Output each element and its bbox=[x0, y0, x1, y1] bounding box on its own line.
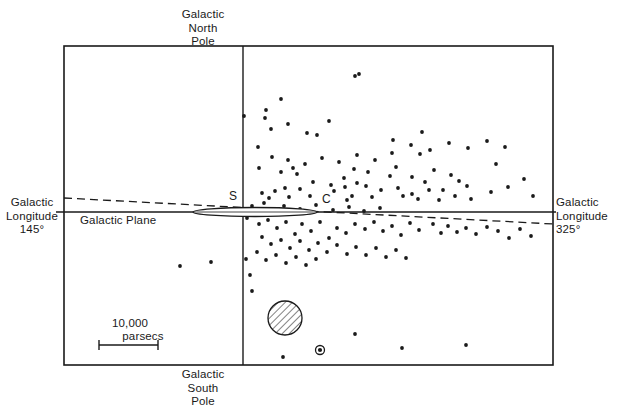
circled-dot-object bbox=[316, 346, 325, 355]
plot-canvas bbox=[0, 0, 619, 413]
axis-label-galactic-longitude-145: Galactic Longitude 145° bbox=[2, 196, 62, 237]
annotation-sun-marker: S bbox=[229, 190, 237, 204]
hatched-cloud bbox=[268, 301, 302, 335]
axis-label-galactic-south-pole: Galactic South Pole bbox=[163, 368, 243, 409]
annotation-galactic-plane: Galactic Plane bbox=[80, 214, 156, 228]
axis-label-galactic-north-pole: Galactic North Pole bbox=[163, 8, 243, 49]
axis-label-galactic-longitude-325: Galactic Longitude 325° bbox=[556, 196, 618, 237]
scale-bar-unit: parsecs bbox=[111, 330, 175, 344]
galactic-distribution-figure: Galactic North Pole Galactic South Pole … bbox=[0, 0, 619, 413]
annotation-galactic-center-marker: C bbox=[322, 193, 331, 207]
scale-bar-value: 10,000 bbox=[98, 317, 162, 331]
galactic-disk-lens bbox=[193, 208, 317, 217]
